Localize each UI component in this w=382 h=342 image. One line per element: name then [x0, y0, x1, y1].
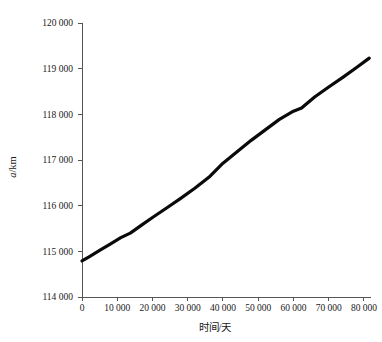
y-tick-label: 120 000: [42, 18, 73, 28]
x-tick-label: 40 000: [210, 303, 236, 313]
x-tick-label: 50 000: [245, 303, 271, 313]
y-tick-label: 116 000: [42, 201, 73, 211]
x-tick-label: 70 000: [316, 303, 342, 313]
y-tick-label: 115 000: [42, 247, 73, 257]
y-axis-title-unit: /km: [7, 156, 18, 172]
y-tick-label: 118 000: [42, 110, 73, 120]
semi-major-axis-line-chart: 114 000115 000116 000117 000118 000119 0…: [0, 0, 382, 342]
x-tick-label: 60 000: [280, 303, 306, 313]
x-axis-title: 时间/天: [199, 321, 233, 333]
x-tick-label: 10 000: [104, 303, 130, 313]
x-tick-label: 80 000: [351, 303, 377, 313]
y-tick-label: 114 000: [42, 292, 73, 302]
x-tick-label: 30 000: [175, 303, 201, 313]
y-axis-title: a/km: [7, 156, 18, 178]
x-tick-label: 0: [80, 303, 85, 313]
y-tick-label: 119 000: [42, 64, 73, 74]
chart-figure: 114 000115 000116 000117 000118 000119 0…: [0, 0, 382, 342]
x-tick-label: 20 000: [139, 303, 165, 313]
chart-background: [0, 0, 382, 342]
x-tick-label-group: 010 00020 00030 00040 00050 00060 00070 …: [80, 303, 378, 313]
y-tick-label: 117 000: [42, 155, 73, 165]
